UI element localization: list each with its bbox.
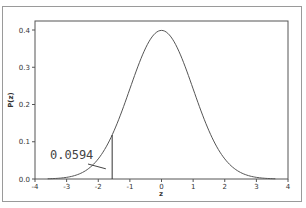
y-tick-label: 0.4: [19, 27, 31, 35]
x-tick-label: 1: [191, 183, 195, 191]
x-tick-label: 4: [286, 183, 291, 191]
y-axis: 0.00.10.20.30.4: [19, 27, 35, 184]
y-tick-label: 0.1: [19, 138, 30, 146]
y-axis-label: P(z): [7, 92, 15, 108]
x-tick-label: -3: [63, 183, 70, 191]
x-tick-label: 2: [223, 183, 227, 191]
x-tick-label: -4: [32, 183, 40, 191]
y-tick-label: 0.3: [19, 64, 30, 72]
x-axis-label: z: [159, 190, 163, 198]
y-tick-label: 0.0: [19, 176, 30, 184]
tail-area-label: 0.0594: [50, 148, 93, 162]
x-tick-label: -1: [126, 183, 133, 191]
normal-distribution-chart: 0.00.10.20.30.4 -4-3-2-101234 0.0594 z P…: [0, 0, 306, 208]
x-tick-label: 3: [254, 183, 258, 191]
x-tick-label: -2: [95, 183, 102, 191]
y-tick-label: 0.2: [19, 101, 30, 109]
